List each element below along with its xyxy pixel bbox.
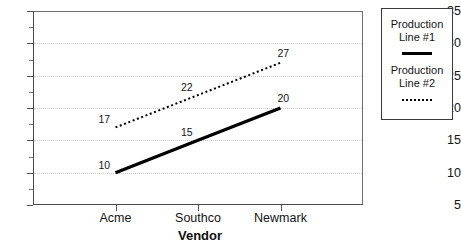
- y-axis-tick: [27, 108, 33, 109]
- legend-item-1-label-line2: Line #1: [382, 31, 452, 44]
- gridline: [34, 43, 362, 44]
- data-point-label: 17: [99, 113, 111, 125]
- data-point-label: 27: [278, 47, 290, 59]
- gridline: [34, 108, 362, 109]
- y-axis-label: 15: [437, 134, 461, 146]
- legend-sample-solid-line: [402, 52, 432, 55]
- data-point-label: 15: [181, 126, 193, 138]
- y-axis-label: 10: [437, 167, 461, 179]
- gridline: [34, 140, 362, 141]
- y-axis-tick: [27, 140, 33, 141]
- legend-item-2-label-line2: Line #2: [382, 77, 452, 90]
- x-axis-label-acme: Acme: [71, 211, 161, 225]
- y-axis-tick: [27, 76, 33, 77]
- y-axis-tick: [27, 205, 33, 206]
- y-axis-tick: [27, 43, 33, 44]
- legend-sample-dotted-line: [402, 99, 432, 101]
- x-axis-label-southco: Southco: [153, 211, 243, 225]
- gridline: [34, 173, 362, 174]
- x-axis-label-newmark: Newmark: [236, 211, 326, 225]
- data-point-label: 22: [181, 81, 193, 93]
- y-axis-minor-tick: [29, 124, 33, 125]
- y-axis-tick: [27, 11, 33, 12]
- chart-legend: Production Line #1 Production Line #2: [381, 8, 453, 120]
- y-axis-minor-tick: [29, 189, 33, 190]
- y-axis-minor-tick: [29, 157, 33, 158]
- y-axis-minor-tick: [29, 60, 33, 61]
- y-axis-label: 5: [437, 199, 461, 211]
- y-axis-minor-tick: [29, 92, 33, 93]
- data-point-label: 10: [99, 159, 111, 171]
- legend-item-2-label-line1: Production: [382, 64, 452, 77]
- gridline: [34, 76, 362, 77]
- y-axis-minor-tick: [29, 27, 33, 28]
- x-axis-title: Vendor: [110, 228, 290, 243]
- data-point-label: 20: [278, 92, 290, 104]
- y-axis-tick: [27, 173, 33, 174]
- chart-canvas: 3530252015105 AcmeSouthcoNewmark 1015201…: [0, 0, 461, 250]
- legend-item-1-label-line1: Production: [382, 18, 452, 31]
